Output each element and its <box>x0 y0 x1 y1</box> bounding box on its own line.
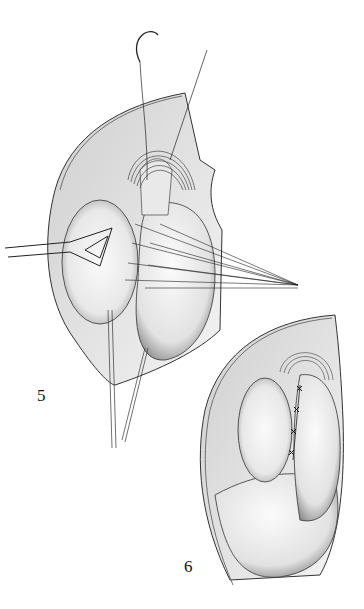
surgical-illustration: 5 6 <box>0 0 364 609</box>
needle-icon <box>136 32 158 62</box>
figure-5-label: 5 <box>37 386 46 405</box>
figure-6-label: 6 <box>184 557 193 576</box>
left-lobe <box>62 200 138 324</box>
left-lobe <box>238 378 292 482</box>
figure-6 <box>200 315 343 585</box>
